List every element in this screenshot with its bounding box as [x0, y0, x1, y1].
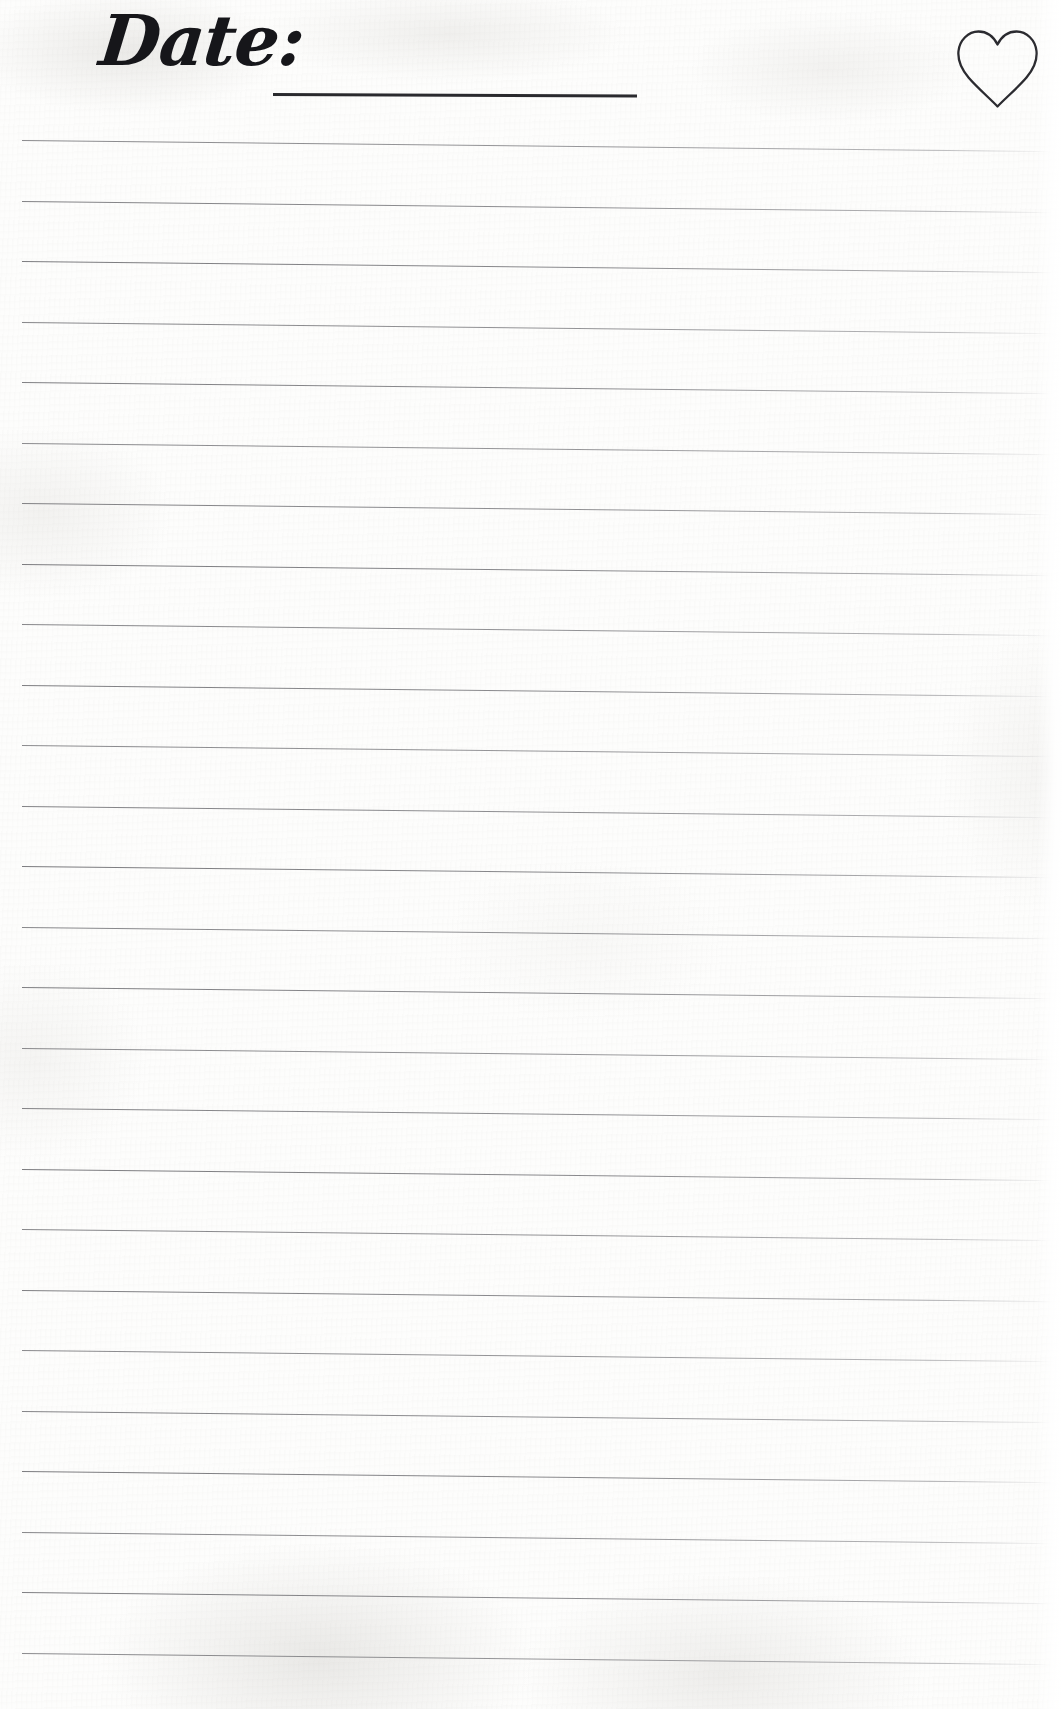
ruled-line[interactable]	[22, 503, 1055, 515]
ruled-line[interactable]	[22, 140, 1055, 152]
ruled-line[interactable]	[22, 1471, 1055, 1483]
ruled-line[interactable]	[22, 1048, 1055, 1060]
ruled-line[interactable]	[22, 322, 1055, 334]
journal-page: Date:	[0, 0, 1062, 1709]
ruled-line[interactable]	[22, 1653, 1055, 1665]
ruled-line[interactable]	[22, 261, 1055, 273]
ruled-line[interactable]	[22, 685, 1055, 697]
ruled-line[interactable]	[22, 745, 1055, 757]
ruled-line[interactable]	[22, 866, 1055, 878]
ruled-line[interactable]	[22, 987, 1055, 999]
ruled-line[interactable]	[22, 927, 1055, 939]
ruled-line[interactable]	[22, 382, 1055, 394]
ruled-lines-group	[0, 0, 1062, 1709]
ruled-line[interactable]	[22, 1290, 1055, 1302]
ruled-line[interactable]	[22, 1229, 1055, 1241]
ruled-line[interactable]	[22, 806, 1055, 818]
ruled-line[interactable]	[22, 1169, 1055, 1181]
ruled-line[interactable]	[22, 1350, 1055, 1362]
ruled-line[interactable]	[22, 443, 1055, 455]
ruled-line[interactable]	[22, 1532, 1055, 1544]
ruled-line[interactable]	[22, 201, 1055, 213]
ruled-line[interactable]	[22, 624, 1055, 636]
ruled-line[interactable]	[22, 1411, 1055, 1423]
ruled-line[interactable]	[22, 564, 1055, 576]
ruled-line[interactable]	[22, 1108, 1055, 1120]
ruled-line[interactable]	[22, 1592, 1055, 1604]
